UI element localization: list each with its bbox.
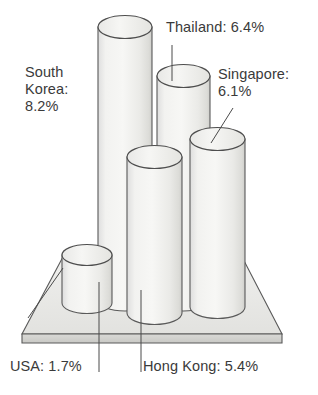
data-label-thailand: Thailand: 6.4% (166, 19, 264, 36)
cylinder-cap-usa (62, 245, 112, 266)
cylinder-singapore (190, 128, 245, 319)
cylinder-body-singapore (190, 139, 245, 319)
chart-graphic (0, 0, 318, 395)
cylinder-cap-singapore (190, 128, 245, 151)
cylinder-usa (62, 245, 112, 314)
cylinder-cap-south-korea (98, 16, 152, 39)
cylinder-body-hong-kong (127, 157, 182, 325)
data-label-south-korea: South Korea: 8.2% (25, 64, 68, 115)
data-label-singapore: Singapore: 6.1% (218, 66, 289, 100)
data-label-hong-kong: Hong Kong: 5.4% (143, 358, 258, 375)
cylinder-bar-chart: South Korea: 8.2% Thailand: 6.4% Singapo… (0, 0, 318, 395)
cylinder-cap-hong-kong (127, 146, 182, 169)
cylinder-cap-thailand (157, 65, 210, 88)
cylinder-hong-kong (127, 146, 182, 325)
base-front-face (22, 334, 282, 343)
data-label-usa: USA: 1.7% (10, 358, 82, 375)
